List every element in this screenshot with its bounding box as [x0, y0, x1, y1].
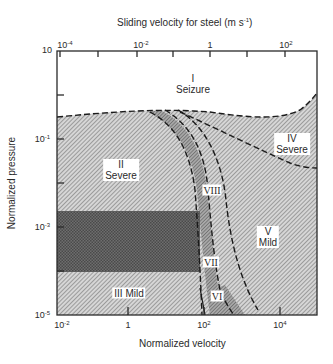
- region-label-viii: VIII: [202, 185, 221, 196]
- y-tick-label: 10-1: [20, 134, 50, 144]
- wear-region-fill: [57, 93, 317, 315]
- top-tick-label: 102: [279, 40, 292, 50]
- region-label-i: I Seizure: [174, 73, 212, 95]
- region-label-iii: III Mild: [112, 288, 145, 299]
- y-tick-label: 10-5: [20, 310, 50, 320]
- x-tick-label: 102: [197, 320, 210, 330]
- x-tick-label: 104: [273, 320, 286, 330]
- top-axis-ticks: [60, 51, 285, 57]
- x-tick-label: 10-2: [54, 320, 69, 330]
- region-label-vii: VII: [203, 257, 219, 268]
- y-tick-label: 10: [22, 45, 52, 55]
- x-tick-label: 1: [125, 320, 130, 330]
- dark-band: [57, 211, 200, 272]
- region-label-ii: II Severe: [103, 159, 139, 181]
- y-axis-title: Normalized pressure: [6, 137, 17, 229]
- top-tick-label: 1: [207, 40, 212, 50]
- x-axis-title: Normalized velocity: [139, 338, 226, 349]
- region-label-iv: IV Severe: [274, 133, 310, 155]
- top-tick-label: 10-4: [57, 40, 72, 50]
- region-label-vi: VI: [211, 291, 224, 302]
- top-tick-label: 10-2: [133, 40, 148, 50]
- y-tick-label: 10-3: [20, 222, 50, 232]
- region-label-v: V Mild: [257, 226, 279, 248]
- top-axis-title: Sliding velocity for steel (m s-1): [117, 17, 252, 28]
